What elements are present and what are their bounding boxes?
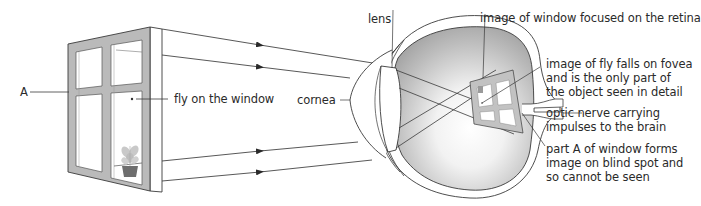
label-a: A [20, 85, 28, 99]
label-image-on-retina: image of window focused on the retina [480, 11, 701, 25]
label-cornea: cornea [297, 93, 336, 107]
label-lens: lens [368, 12, 391, 26]
label-optic-nerve: optic nerve carrying impulses to the bra… [546, 106, 666, 134]
window-pane-bottom-left [76, 94, 102, 172]
fly-icon [131, 98, 133, 100]
window [68, 27, 162, 192]
window-side-panel [150, 27, 162, 192]
label-blind-spot: part A of window forms image on blind sp… [546, 142, 683, 184]
label-fly-on-fovea: image of fly falls on fovea and is the o… [546, 57, 692, 99]
label-fly-on-window: fly on the window [174, 92, 274, 106]
window-pane-top-right [111, 40, 142, 86]
window-pane-top-left [76, 47, 102, 89]
